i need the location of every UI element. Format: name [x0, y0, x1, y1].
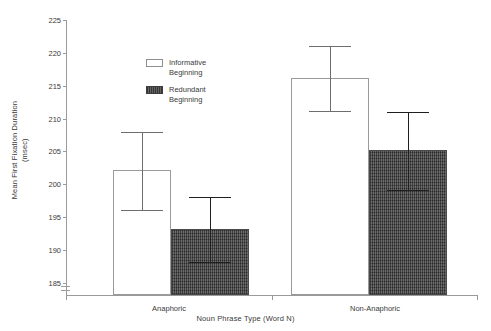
y-tick-label-225: 225: [48, 16, 61, 25]
y-tick-label-195: 195: [48, 213, 61, 222]
bar-chart-figure: (msec) Mean First Fixation Duration 225 …: [0, 0, 491, 331]
chart-legend: Informative Beginning Redundant Beginnin…: [146, 58, 206, 105]
y-axis-title-text: Mean First Fixation Duration: [10, 101, 20, 199]
plot-area: 225 220 215 210 205 200 195 190: [66, 20, 478, 296]
x-tick-label-anaphoric: Anaphoric: [152, 304, 186, 313]
legend-label-redundant: Redundant Beginning: [169, 85, 206, 105]
legend-item-informative[interactable]: Informative Beginning: [146, 58, 206, 78]
y-tick-label-220: 220: [48, 48, 61, 57]
x-axis-title: Noun Phrase Type (Word N): [0, 314, 491, 323]
y-axis-title-units: (msec): [20, 138, 30, 162]
y-tick-label-185: 185: [48, 278, 61, 287]
x-tick-label-non-anaphoric: Non-Anaphoric: [350, 304, 400, 313]
legend-label-informative-line1: Informative: [169, 58, 206, 68]
y-tick-label-190: 190: [48, 246, 61, 255]
legend-swatch-filled-icon: [146, 86, 163, 94]
legend-label-informative-line2: Beginning: [169, 68, 206, 78]
y-axis-line: [66, 20, 67, 296]
legend-swatch-open-icon: [146, 59, 163, 67]
legend-label-informative: Informative Beginning: [169, 58, 206, 78]
legend-label-redundant-line2: Beginning: [169, 95, 206, 105]
y-tick-label-205: 205: [48, 147, 61, 156]
x-tick-mark-right: [477, 296, 478, 300]
legend-item-redundant[interactable]: Redundant Beginning: [146, 85, 206, 105]
x-tick-mark-left: [66, 296, 67, 300]
y-tick-label-215: 215: [48, 81, 61, 90]
y-axis-title: (msec) Mean First Fixation Duration: [0, 0, 40, 300]
y-tick-label-210: 210: [48, 114, 61, 123]
legend-label-redundant-line1: Redundant: [169, 85, 206, 95]
axis-break-icon: [61, 286, 70, 293]
y-tick-label-200: 200: [48, 180, 61, 189]
x-tick-mark-middle: [272, 296, 273, 300]
